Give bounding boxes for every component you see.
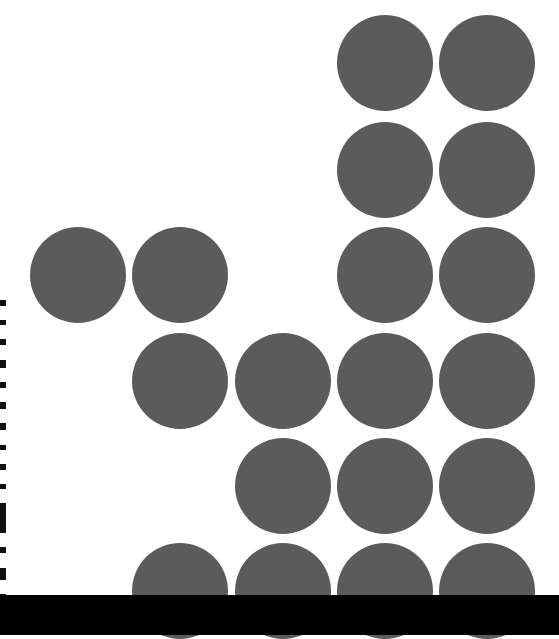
glyph-fragment	[0, 382, 6, 388]
glyph-fragment	[0, 464, 6, 470]
circle-dot	[337, 15, 433, 111]
circle-dot	[439, 122, 535, 218]
circle-dot	[235, 438, 331, 534]
glyph-fragment	[0, 320, 6, 325]
glyph-fragment	[0, 402, 6, 409]
circle-dot	[337, 122, 433, 218]
circle-dot	[439, 15, 535, 111]
glyph-fragment	[0, 445, 6, 450]
cropped-edge-text	[0, 300, 8, 600]
circle-dot	[439, 333, 535, 429]
bottom-black-bar	[0, 595, 559, 635]
glyph-fragment	[0, 484, 6, 489]
circle-dot	[30, 227, 126, 323]
glyph-fragment	[0, 300, 6, 306]
circle-dot	[337, 333, 433, 429]
circle-dot	[235, 333, 331, 429]
circle-dot	[132, 227, 228, 323]
glyph-fragment	[0, 339, 6, 345]
circle-dot	[439, 438, 535, 534]
glyph-fragment	[0, 503, 6, 533]
circle-dot	[337, 438, 433, 534]
circle-dot	[439, 227, 535, 323]
circle-dot	[132, 333, 228, 429]
glyph-fragment	[0, 423, 6, 430]
glyph-fragment	[0, 547, 6, 553]
glyph-fragment	[0, 360, 6, 368]
circle-dot	[337, 227, 433, 323]
glyph-fragment	[0, 568, 6, 580]
